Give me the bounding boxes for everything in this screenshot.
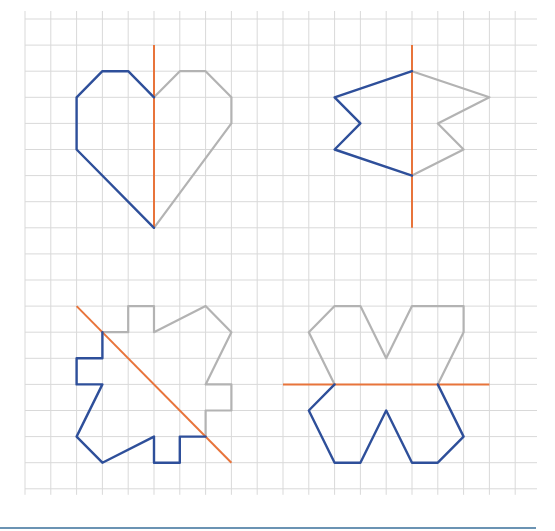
figure-flag	[335, 45, 490, 228]
grid-diagram	[0, 0, 555, 531]
reflected-half-grey	[102, 306, 231, 437]
grid-paper	[25, 11, 537, 495]
figure-diagonal-shape	[77, 306, 232, 463]
figure-heart	[77, 45, 232, 228]
original-half-blue	[77, 332, 206, 463]
bottom-rule	[0, 527, 536, 529]
